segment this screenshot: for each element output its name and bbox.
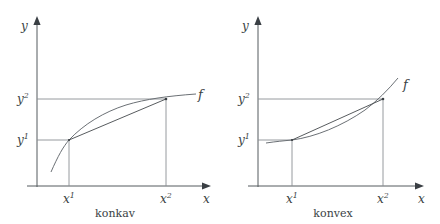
chord-line bbox=[69, 99, 166, 140]
panel-caption-konkav: konkav bbox=[95, 207, 136, 220]
y1-tick-label: y1 bbox=[16, 132, 29, 147]
convex-plot: y x f y1 y2 x1 x2 konvex bbox=[220, 0, 440, 224]
figure-container: y x f y1 y2 x1 x2 konkav bbox=[0, 0, 440, 224]
x1-tick-label: x1 bbox=[63, 191, 75, 206]
x1-tick-label: x1 bbox=[286, 191, 298, 206]
x2-tick-label: x2 bbox=[377, 191, 389, 206]
function-curve-concave bbox=[51, 94, 196, 172]
panel-concave: y x f y1 y2 x1 x2 konkav bbox=[0, 0, 220, 224]
point-x1-y1 bbox=[291, 139, 293, 141]
x-axis-label: x bbox=[203, 192, 210, 206]
curve-label-f: f bbox=[197, 87, 205, 102]
x-axis-arrowhead bbox=[415, 182, 424, 189]
panel-convex: y x f y1 y2 x1 x2 konvex bbox=[220, 0, 440, 224]
chord-line bbox=[292, 99, 383, 140]
point-x2-y2 bbox=[165, 98, 168, 101]
y-axis-arrowhead bbox=[254, 16, 261, 25]
y-axis-label: y bbox=[20, 19, 28, 33]
point-x2-y2 bbox=[382, 98, 385, 101]
x2-tick-label: x2 bbox=[160, 191, 172, 206]
curve-label-f: f bbox=[402, 77, 410, 92]
point-x1-y1 bbox=[68, 139, 70, 141]
x-axis-arrowhead bbox=[202, 182, 211, 189]
y2-tick-label: y2 bbox=[237, 91, 250, 106]
y1-tick-label: y1 bbox=[237, 132, 250, 147]
y2-tick-label: y2 bbox=[16, 91, 29, 106]
y-axis-arrowhead bbox=[33, 16, 40, 25]
y-axis-label: y bbox=[241, 19, 249, 33]
x-axis-label: x bbox=[418, 192, 425, 206]
panel-caption-konvex: konvex bbox=[313, 207, 353, 220]
function-curve-convex bbox=[266, 78, 398, 143]
concave-plot: y x f y1 y2 x1 x2 konkav bbox=[0, 0, 220, 224]
